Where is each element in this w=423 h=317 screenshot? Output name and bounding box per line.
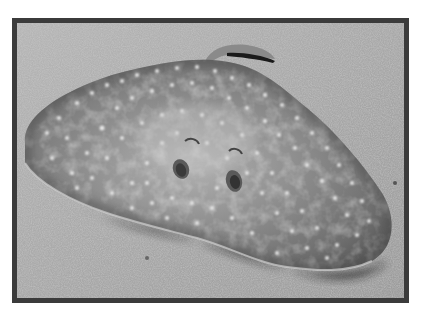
pebble (393, 181, 397, 185)
pebble (145, 256, 149, 260)
photo-frame: Spotted ray lying on sandy seafloor (12, 18, 409, 303)
ray-photo (17, 23, 404, 298)
